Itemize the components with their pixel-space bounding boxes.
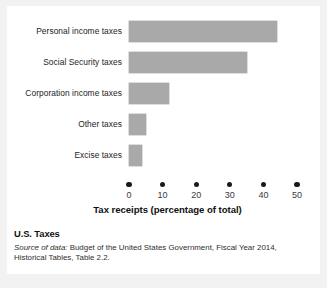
x-axis-title: Tax receipts (percentage of total)	[7, 203, 320, 216]
x-axis-tick-dot	[160, 182, 165, 187]
figure-caption: U.S. Taxes Source of data: Budget of the…	[14, 228, 280, 264]
cut-off-header-text	[0, 0, 327, 7]
bar	[129, 83, 169, 104]
bar	[129, 52, 247, 73]
source-lead-label: Source of data:	[14, 243, 68, 252]
x-axis-tick-dot	[194, 182, 199, 187]
x-axis-tick-label: 40	[247, 190, 279, 201]
x-axis-tick-label: 0	[113, 190, 145, 201]
x-axis-tick-label: 30	[214, 190, 246, 201]
bar	[129, 145, 142, 166]
bar	[129, 114, 146, 135]
x-axis-tick-dot	[261, 182, 266, 187]
x-axis-tick-dot	[227, 182, 232, 187]
category-label: Excise taxes	[7, 150, 122, 161]
bar-row: Other taxes	[7, 112, 320, 143]
x-axis: 01020304050	[7, 182, 320, 222]
x-axis-tick-dot	[294, 182, 299, 187]
x-axis-tick-label: 50	[281, 190, 313, 201]
bar-chart-plot-area: Personal income taxesSocial Security tax…	[7, 10, 320, 195]
category-label: Personal income taxes	[7, 26, 122, 37]
x-axis-tick-label: 20	[180, 190, 212, 201]
bar-row: Excise taxes	[7, 143, 320, 174]
bar-row: Personal income taxes	[7, 19, 320, 50]
category-label: Other taxes	[7, 119, 122, 130]
category-label: Corporation income taxes	[7, 88, 122, 99]
bar	[129, 21, 277, 42]
x-axis-tick-label: 10	[147, 190, 179, 201]
x-axis-tick-dot	[126, 182, 131, 187]
category-label: Social Security taxes	[7, 57, 122, 68]
bar-row: Corporation income taxes	[7, 81, 320, 112]
caption-title: U.S. Taxes	[14, 228, 280, 240]
caption-source: Source of data: Budget of the United Sta…	[14, 243, 280, 264]
figure-card: Personal income taxesSocial Security tax…	[0, 0, 327, 288]
bar-row: Social Security taxes	[7, 50, 320, 81]
